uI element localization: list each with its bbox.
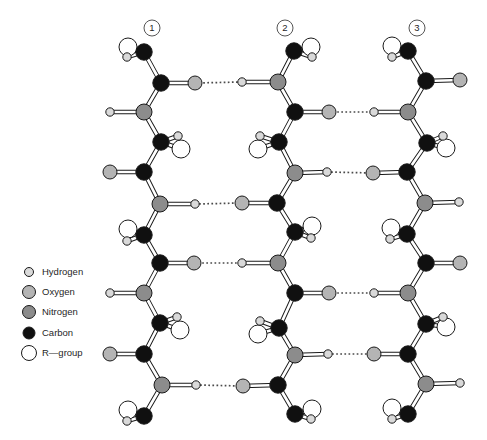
atom-hydrogen-chain3 [456, 379, 464, 387]
atom-nitrogen-chain1 [152, 196, 168, 212]
atom-oxygen-chain2 [322, 286, 336, 300]
atom-oxygen-chain1 [103, 165, 117, 179]
atom-carbon-chain1 [136, 346, 152, 362]
legend-label-carbon: Carbon [42, 327, 73, 338]
atom-oxygen-chain3 [367, 347, 381, 361]
atom-oxygen-chain3 [366, 166, 380, 180]
atom-hydrogen-chain1 [106, 289, 114, 297]
atom-r-group-chain3 [382, 219, 400, 237]
atom-r-group-chain1 [171, 321, 189, 339]
atom-carbon-chain2 [287, 406, 303, 422]
atom-nitrogen-chain3 [400, 285, 416, 301]
atom-r-group-chain3 [437, 139, 455, 157]
atom-carbon-chain2 [271, 320, 287, 336]
atom-oxygen-chain3 [453, 256, 467, 270]
legend-swatch-carbon [23, 327, 35, 339]
atom-hydrogen-chain3 [370, 289, 378, 297]
atom-r-group-chain2 [303, 217, 321, 235]
atom-r-group-chain3 [437, 318, 455, 336]
atom-oxygen-chain2 [322, 105, 336, 119]
chain-label-number-1: 1 [149, 22, 154, 33]
atom-hydrogen-chain3 [439, 132, 447, 140]
atom-r-group-chain2 [249, 140, 267, 158]
legend-swatch-oxygen [23, 286, 36, 299]
atom-carbon-chain2 [270, 377, 286, 393]
atom-hydrogen-chain2 [256, 317, 264, 325]
atom-carbon-chain2 [287, 104, 303, 120]
beta-pleated-sheet-figure: 123HydrogenOxygenNitrogenCarbonR—group [0, 0, 487, 440]
atom-nitrogen-chain3 [400, 104, 416, 120]
atom-carbon-chain1 [153, 75, 169, 91]
atom-carbon-chain2 [287, 224, 303, 240]
atom-oxygen-chain2 [236, 379, 250, 393]
atom-hydrogen-chain3 [386, 235, 394, 243]
atom-hydrogen-chain3 [388, 53, 396, 61]
atom-nitrogen-chain3 [417, 195, 433, 211]
atom-hydrogen-chain2 [238, 78, 246, 86]
atom-hydrogen-chain2 [323, 168, 331, 176]
atom-carbon-chain2 [287, 285, 303, 301]
atom-hydrogen-chain3 [439, 313, 447, 321]
atom-oxygen-chain3 [453, 73, 467, 87]
atom-carbon-chain3 [399, 226, 415, 242]
atom-hydrogen-chain3 [455, 198, 463, 206]
atom-oxygen-chain1 [188, 76, 202, 90]
atom-carbon-chain1 [152, 315, 168, 331]
atom-r-group-chain3 [383, 37, 401, 55]
atom-carbon-chain2 [271, 134, 287, 150]
atom-carbon-chain1 [136, 227, 152, 243]
atom-hydrogen-chain1 [106, 108, 114, 116]
atom-hydrogen-chain2 [256, 132, 264, 140]
atom-carbon-chain1 [136, 164, 152, 180]
atom-carbon-chain3 [419, 135, 435, 151]
atom-r-group-chain1 [119, 401, 137, 419]
atom-r-group-chain3 [383, 399, 401, 417]
atom-hydrogen-chain1 [123, 417, 131, 425]
atom-hydrogen-chain3 [388, 415, 396, 423]
chain-label-number-3: 3 [414, 22, 419, 33]
atom-nitrogen-chain2 [287, 347, 303, 363]
atom-hydrogen-chain2 [307, 415, 315, 423]
atom-hydrogen-chain1 [173, 313, 181, 321]
diagram-svg: 123HydrogenOxygenNitrogenCarbonR—group [0, 0, 487, 440]
atom-carbon-chain3 [418, 255, 434, 271]
atom-hydrogen-chain1 [191, 200, 199, 208]
atom-hydrogen-chain1 [174, 132, 182, 140]
atom-carbon-chain3 [400, 43, 416, 59]
atom-hydrogen-chain2 [307, 234, 315, 242]
legend-label-hydrogen: Hydrogen [42, 266, 83, 277]
atom-hydrogen-chain1 [123, 237, 131, 245]
atom-nitrogen-chain1 [136, 285, 152, 301]
legend-label-nitrogen: Nitrogen [42, 306, 78, 317]
atom-hydrogen-chain1 [123, 53, 131, 61]
legend-label-r-group: R—group [42, 347, 83, 358]
atom-nitrogen-chain1 [154, 377, 170, 393]
atom-hydrogen-chain2 [238, 259, 246, 267]
atom-hydrogen-chain2 [324, 350, 332, 358]
atom-nitrogen-chain3 [418, 376, 434, 392]
atom-carbon-chain1 [136, 408, 152, 424]
atom-oxygen-chain1 [187, 256, 201, 270]
atom-nitrogen-chain1 [136, 104, 152, 120]
atom-hydrogen-chain1 [192, 381, 200, 389]
atom-hydrogen-chain2 [308, 53, 316, 61]
atom-carbon-chain3 [418, 316, 434, 332]
atom-carbon-chain3 [400, 346, 416, 362]
atom-carbon-chain3 [399, 164, 415, 180]
chain-label-number-2: 2 [282, 22, 287, 33]
atom-carbon-chain3 [418, 73, 434, 89]
atom-carbon-chain3 [400, 406, 416, 422]
legend-label-oxygen: Oxygen [42, 286, 75, 297]
legend-swatch-hydrogen [25, 268, 34, 277]
atom-nitrogen-chain2 [270, 255, 286, 271]
atom-oxygen-chain1 [103, 347, 117, 361]
atom-carbon-chain1 [152, 255, 168, 271]
atom-hydrogen-chain3 [370, 108, 378, 116]
atom-carbon-chain1 [136, 44, 152, 60]
legend-swatch-nitrogen [23, 306, 36, 319]
atom-nitrogen-chain2 [287, 165, 303, 181]
atom-r-group-chain2 [249, 325, 267, 343]
atom-oxygen-chain2 [235, 196, 249, 210]
atom-carbon-chain1 [153, 134, 169, 150]
atom-carbon-chain2 [286, 43, 302, 59]
